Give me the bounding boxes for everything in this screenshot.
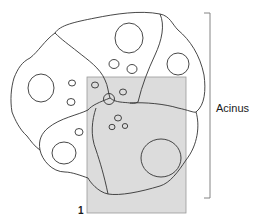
acinus-label: Acinus <box>216 103 249 114</box>
granule <box>75 129 83 136</box>
granule <box>109 60 119 69</box>
nucleus <box>115 23 143 53</box>
nucleus <box>52 142 76 164</box>
granule <box>127 65 137 74</box>
nucleus <box>167 53 189 75</box>
acinus-bracket <box>204 13 210 198</box>
granule <box>69 80 76 86</box>
highlight-region <box>87 77 186 213</box>
granule <box>67 99 75 106</box>
region-marker-1: 1 <box>78 206 84 216</box>
nucleus <box>28 74 54 102</box>
